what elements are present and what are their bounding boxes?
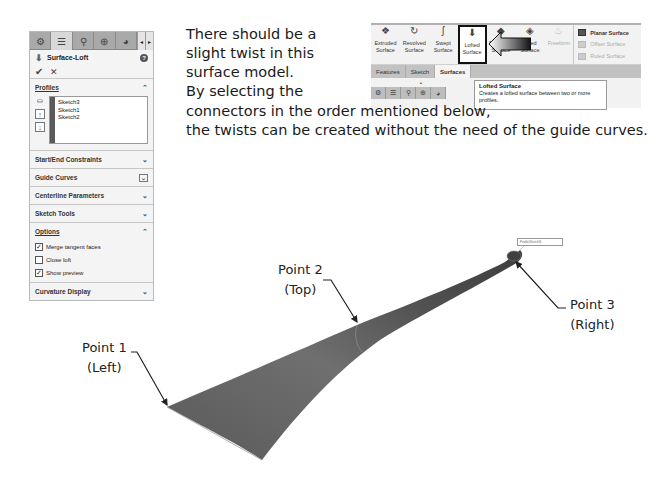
options-section: Options ⌃ ✓ Merge tangent faces Close lo… — [30, 223, 153, 283]
profile-item[interactable]: Sketch3 — [58, 99, 80, 107]
cancel-x-icon[interactable]: ✕ — [50, 67, 58, 77]
revolved-surface-button[interactable]: ↻ Revolved Surface — [400, 25, 429, 64]
point3-callout: Point 3 (Right) — [570, 295, 615, 335]
merge-tangent-faces-option[interactable]: ✓ Merge tangent faces — [30, 240, 153, 253]
merge-tangent-faces-checkbox[interactable]: ✓ — [35, 243, 43, 251]
start-end-constraints-header[interactable]: Start/End Constraints ⌄ — [30, 151, 153, 168]
move-up-button[interactable]: ↑ — [35, 109, 45, 119]
expand-chevron-icon[interactable]: ⌄ — [142, 210, 148, 218]
instruction-line: There should be a — [186, 26, 316, 42]
pointer-arrow-icon — [489, 32, 531, 56]
centerline-parameters-header[interactable]: Centerline Parameters ⌄ — [30, 187, 153, 204]
tab-scroll: ◂ ▸ — [137, 32, 153, 49]
button-label: Ruled Surface — [590, 53, 625, 59]
callout-title: Point 1 — [82, 338, 127, 358]
freeform-button[interactable]: ♨ Freeform — [544, 25, 573, 64]
guide-curves-header[interactable]: Guide Curves ⌄ — [30, 169, 153, 186]
extruded-surface-icon: ❖ — [381, 28, 390, 40]
show-preview-option[interactable]: ✓ Show preview — [30, 266, 153, 279]
dimxpert-icon[interactable]: ⊕ — [416, 87, 431, 99]
profile-sketch-left[interactable] — [167, 407, 262, 460]
button-label: Offset Surface — [590, 41, 625, 47]
instruction-line: By selecting the — [186, 83, 303, 99]
property-manager-icon: ☰ — [57, 36, 66, 47]
configuration-manager-icon: ⚲ — [80, 36, 87, 47]
option-label: Show preview — [46, 270, 83, 276]
profile-sketch-right[interactable] — [507, 251, 521, 261]
profile-selection-icon: ⛀ — [35, 96, 45, 106]
sketch-tools-section: Sketch Tools ⌄ — [30, 205, 153, 223]
configuration-manager-icon[interactable]: ⚲ — [401, 87, 416, 99]
tooltip-description: Creates a lofted surface between two or … — [479, 90, 602, 104]
expand-chevron-icon[interactable]: ⌄ — [142, 156, 148, 164]
show-preview-checkbox[interactable]: ✓ — [35, 269, 43, 277]
callout-subtitle: (Left) — [82, 358, 127, 378]
lofted-surface-icon: ⬇ — [468, 30, 476, 42]
scroll-right-icon[interactable]: ▸ — [145, 32, 153, 50]
lofted-surface-button[interactable]: ⬇ Lofted Surface — [458, 25, 487, 64]
options-header[interactable]: Options ⌃ — [30, 223, 153, 240]
property-manager-tab[interactable]: ☰ — [51, 32, 72, 50]
feature-manager-tab[interactable]: ⚙ — [30, 32, 51, 50]
button-label: Extruded Surface — [371, 40, 400, 53]
property-manager-icon[interactable]: ☰ — [386, 87, 401, 99]
feature-manager-icon[interactable]: ⚙ — [371, 87, 386, 99]
profiles-label: Profiles — [35, 84, 59, 91]
profiles-header[interactable]: Profiles ⌃ — [30, 79, 153, 96]
tab-surfaces[interactable]: Surfaces — [435, 65, 471, 78]
expand-chevron-icon[interactable]: ⌄ — [142, 192, 148, 200]
instruction-line: slight twist in this — [186, 45, 314, 61]
move-down-button[interactable]: ↓ — [35, 122, 45, 132]
collapse-chevron-icon[interactable]: ⌃ — [142, 84, 148, 92]
surface-body[interactable] — [167, 250, 522, 460]
extruded-surface-button[interactable]: ❖ Extruded Surface — [371, 25, 400, 64]
point2-leader — [323, 280, 357, 322]
help-icon[interactable]: ? — [140, 54, 148, 62]
button-label: Freeform — [548, 40, 570, 47]
profile-item[interactable]: Sketch2 — [58, 114, 80, 122]
tooltip-title: Lofted Surface — [479, 83, 602, 90]
configuration-manager-tab[interactable]: ⚲ — [73, 32, 94, 50]
manager-tabs-mini: ⚙ ☰ ⚲ ⊕ ◕ — [371, 87, 446, 99]
command-manager-tabs: Features Sketch Surfaces — [371, 65, 641, 78]
tab-features[interactable]: Features — [371, 65, 406, 78]
ok-check-icon[interactable]: ✔ — [35, 66, 43, 77]
surfaces-ribbon: ❖ Extruded Surface ↻ Revolved Surface ʃ … — [371, 23, 641, 108]
sketch-tools-header[interactable]: Sketch Tools ⌄ — [30, 205, 153, 222]
offset-surface-button[interactable]: Offset Surface — [578, 41, 637, 48]
close-loft-option[interactable]: Close loft — [30, 253, 153, 266]
curvature-display-header[interactable]: Curvature Display ⌄ — [30, 283, 153, 300]
ruled-surface-icon — [578, 53, 586, 60]
feature-title-bar: ⬇ Surface-Loft ? — [30, 50, 153, 65]
button-label: Planar Surface — [590, 30, 629, 36]
scroll-left-icon[interactable]: ◂ — [137, 32, 145, 50]
point3-leader — [516, 262, 566, 308]
display-manager-tab[interactable]: ◕ — [116, 32, 137, 50]
button-label: Lofted Surface — [460, 42, 485, 55]
section-label: Start/End Constraints — [35, 156, 102, 163]
close-loft-checkbox[interactable] — [35, 256, 43, 264]
expand-chevron-icon[interactable]: ⌄ — [142, 288, 148, 296]
collapse-chevron-icon[interactable]: ⌃ — [142, 228, 148, 236]
freeform-icon: ♨ — [554, 28, 563, 40]
profile-item[interactable]: Sketch1 — [58, 107, 80, 115]
feature-manager-icon: ⚙ — [36, 36, 45, 47]
curvature-display-section: Curvature Display ⌄ — [30, 283, 153, 300]
ruled-surface-button[interactable]: Ruled Surface — [578, 53, 637, 60]
profiles-listbox[interactable]: Sketch3 Sketch1 Sketch2 — [49, 96, 148, 144]
callout-subtitle: (Right) — [570, 315, 615, 335]
tab-sketch[interactable]: Sketch — [406, 65, 435, 78]
point1-leader — [131, 352, 167, 405]
button-label: Swept Surface — [429, 40, 458, 53]
option-label: Close loft — [46, 257, 71, 263]
dimxpert-tab[interactable]: ⊕ — [94, 32, 115, 50]
swept-surface-button[interactable]: ʃ Swept Surface — [429, 25, 458, 64]
planar-surface-button[interactable]: Planar Surface — [578, 29, 637, 36]
section-label: Centerline Parameters — [35, 192, 104, 199]
expand-chevron-icon[interactable]: ⌄ — [139, 174, 148, 182]
option-label: Merge tangent faces — [46, 244, 101, 250]
callout-subtitle: (Top) — [278, 280, 323, 300]
profile-sketch-middle[interactable] — [356, 325, 362, 352]
display-manager-icon[interactable]: ◕ — [431, 87, 446, 99]
planar-surface-icon — [578, 29, 586, 36]
